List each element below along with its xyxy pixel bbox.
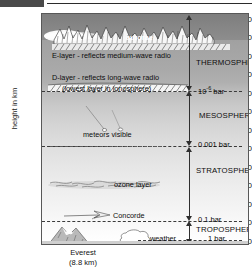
pressure-label-1e-6: 10-6 bar <box>198 85 224 96</box>
plot-area: aurorae E-layer - reflects medium-wave r… <box>41 13 249 245</box>
annotation-meteors: meteors visible <box>83 130 132 139</box>
everest-height-caption: (8.8 km) <box>48 258 118 267</box>
layer-label-troposphere: TROPOSPHERE <box>196 225 249 234</box>
mesosphere-extent-arrow <box>189 96 190 141</box>
layer-label-stratosphere: STRATOSPHERE <box>196 166 249 175</box>
stratosphere-extent-arrow <box>189 152 190 216</box>
arrow-up-icon <box>186 15 192 20</box>
thermosphere-extent-arrow <box>189 20 190 86</box>
ground-surface <box>42 241 248 244</box>
arrow-up-icon <box>186 91 192 96</box>
troposphere-extent-arrow <box>189 226 190 239</box>
everest-caption: Everest <box>48 248 118 257</box>
annotation-d-layer-sub: (lowest layer in ionosphere) <box>62 84 151 93</box>
pressure-label-0p1: 0.1 bar <box>198 215 221 224</box>
pressure-label-0p001: 0.001 bar <box>198 140 230 149</box>
arrow-up-icon <box>186 221 192 226</box>
everest-graphic <box>42 14 249 245</box>
atmosphere-layers-diagram: height in km 120 110 100 90 80 70 60 50 … <box>0 0 252 278</box>
header-black-bar <box>0 0 44 7</box>
layer-label-mesosphere: MESOSPHERE <box>199 111 249 120</box>
annotation-ozone-layer: ozone layer <box>114 180 152 189</box>
header-rule <box>47 3 252 4</box>
layer-label-thermosphere: THERMOSPHERE <box>196 58 249 67</box>
arrow-up-icon <box>186 147 192 152</box>
y-axis-title: height in km <box>10 53 19 165</box>
annotation-d-layer: D-layer - reflects long-wave radio <box>52 73 159 82</box>
pressure-line-0p001-left <box>50 146 162 147</box>
annotation-aurorae: aurorae <box>126 33 153 42</box>
annotation-e-layer: E-layer - reflects medium-wave radio <box>52 51 171 60</box>
annotation-concorde: Concorde <box>113 211 145 220</box>
arrow-down-icon <box>186 141 192 146</box>
